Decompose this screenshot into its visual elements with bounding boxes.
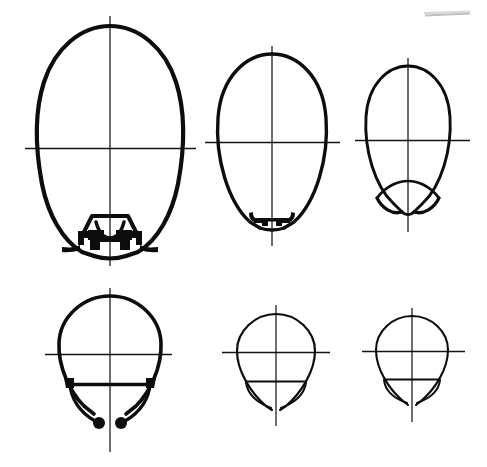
drawing-sheet: [0, 0, 487, 467]
figure-2-bottom-rim: [260, 228, 284, 230]
figure-4-right-hook-ball: [115, 417, 127, 429]
figure-canvas: [0, 0, 487, 467]
figure-1-clamp-web: [90, 238, 130, 242]
figure-2-bridge: [256, 218, 288, 222]
figure-4-left-hook-ball: [93, 417, 105, 429]
